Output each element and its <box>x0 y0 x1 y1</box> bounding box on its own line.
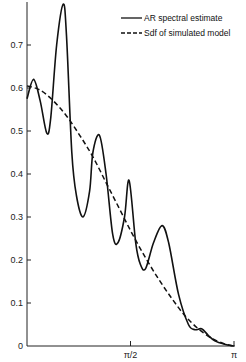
y-tick-label: 0.7 <box>10 40 23 50</box>
legend-item-ar: AR spectral estimate <box>121 13 223 23</box>
sdf-simulated-model-line <box>27 86 234 346</box>
ar-spectral-estimate-line <box>27 4 234 346</box>
y-tick-label: 0.3 <box>10 212 23 222</box>
x-axis: π/2π <box>27 341 237 360</box>
y-tick-label: 0.6 <box>10 83 23 93</box>
y-tick-label: 0.4 <box>10 169 23 179</box>
x-tick-label: π <box>231 350 237 360</box>
legend-item-sdf: Sdf of simulated model <box>121 28 231 38</box>
y-tick-label: 0.5 <box>10 126 23 136</box>
y-tick-label: 0 <box>18 341 23 351</box>
y-tick-label: 0.1 <box>10 298 23 308</box>
legend-label-sdf: Sdf of simulated model <box>144 28 231 38</box>
y-tick-label: 0.2 <box>10 255 23 265</box>
spectral-chart: 00.10.20.30.40.50.60.7 π/2π AR spectral … <box>0 0 246 362</box>
x-ticks: π/2π <box>124 341 237 360</box>
y-axis: 00.10.20.30.40.50.60.7 <box>10 2 31 351</box>
legend-label-ar: AR spectral estimate <box>144 13 223 23</box>
legend: AR spectral estimate Sdf of simulated mo… <box>121 13 231 38</box>
x-tick-label: π/2 <box>124 350 138 360</box>
